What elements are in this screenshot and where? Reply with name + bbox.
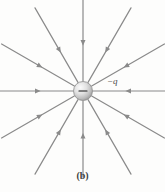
field-line [88, 8, 131, 82]
electric-field-diagram [0, 0, 165, 192]
charge-label: −q [107, 77, 118, 86]
field-arrowhead-icon [125, 89, 131, 94]
field-arrowhead-icon [81, 40, 86, 46]
panel-caption: (b) [0, 171, 165, 181]
figure-panel-b: −q (b) [0, 0, 165, 192]
field-arrowhead-icon [35, 89, 41, 94]
field-line [88, 100, 131, 174]
point-charge-sphere [74, 82, 93, 101]
field-arrowhead-icon [81, 133, 86, 139]
field-line [35, 8, 78, 82]
field-line [35, 100, 78, 174]
minus-sign-icon [78, 90, 87, 92]
